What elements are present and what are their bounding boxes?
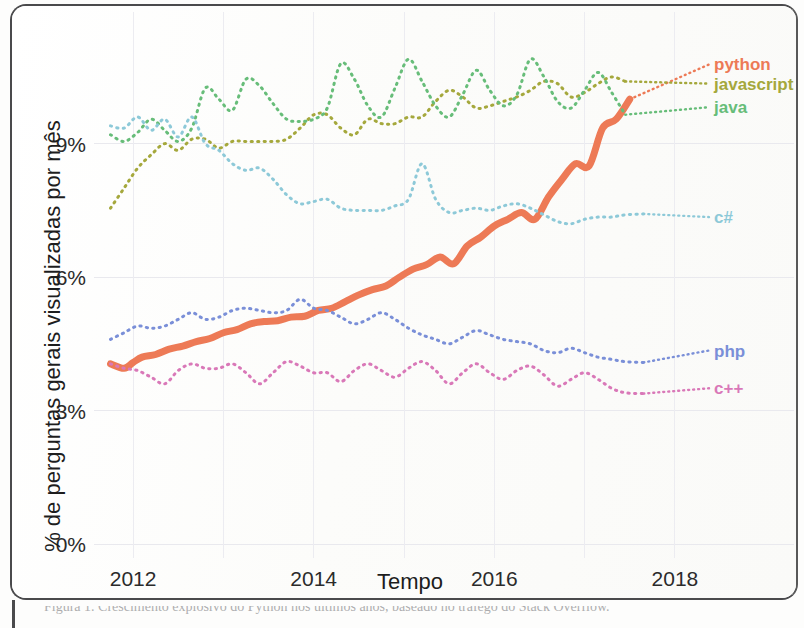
series-leader-c# [643, 214, 709, 217]
figure-caption-strip: Figura 1. Crescimento explosivo do Pytho… [44, 606, 764, 622]
series-leader-php [643, 351, 709, 363]
series-line-java [111, 59, 626, 142]
language-trends-line-chart: 0%3%6%9% 2012201420162018 pythonjavascri… [12, 6, 798, 600]
series-label-javascript: javascript [713, 75, 794, 94]
series-line-c# [111, 117, 644, 224]
series-line-c++ [111, 361, 644, 393]
x-tick-label: 2018 [652, 567, 699, 590]
y-axis-title: % de perguntas gerais visualizadas por m… [40, 120, 65, 552]
series-label-python: python [714, 55, 771, 74]
series-lines [111, 59, 709, 394]
x-tick-label: 2012 [110, 567, 157, 590]
page-spine-mark [12, 600, 15, 628]
series-line-php [111, 299, 644, 362]
series-line-javascript [111, 77, 626, 208]
figure-page: 0%3%6%9% 2012201420162018 pythonjavascri… [0, 0, 804, 628]
series-label-java: java [713, 98, 748, 117]
series-line-python [111, 99, 630, 368]
x-axis-title: Tempo [377, 569, 443, 594]
x-tick-label: 2016 [471, 567, 518, 590]
series-label-c++: c++ [714, 379, 743, 398]
figure-caption: Figura 1. Crescimento explosivo do Pytho… [44, 606, 610, 614]
series-label-c#: c# [714, 208, 733, 227]
series-leader-java [625, 107, 709, 115]
series-inline-labels: pythonjavascriptjavac#phpc++ [713, 55, 794, 398]
figure-frame: 0%3%6%9% 2012201420162018 pythonjavascri… [10, 4, 798, 600]
x-tick-label: 2014 [290, 567, 337, 590]
series-label-php: php [714, 342, 745, 361]
series-leader-c++ [643, 388, 709, 393]
